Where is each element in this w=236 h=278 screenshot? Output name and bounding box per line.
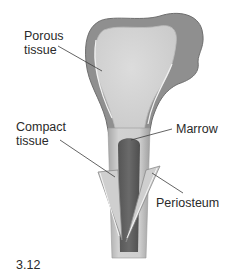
bone-diagram: Porous tissue Compact tissue Marrow Peri… (0, 0, 236, 278)
label-marrow: Marrow (176, 122, 218, 136)
leader-periosteum (152, 173, 183, 193)
label-porous-line2: tissue (24, 43, 64, 57)
leader-compact (60, 140, 115, 177)
label-periosteum: Periosteum (156, 196, 219, 210)
label-compact-line1: Compact (16, 120, 66, 134)
label-compact-line2: tissue (16, 134, 66, 148)
figure-number: 3.12 (16, 258, 40, 272)
label-porous-line1: Porous (24, 29, 64, 43)
label-compact-tissue: Compact tissue (16, 120, 66, 148)
label-porous-tissue: Porous tissue (24, 29, 64, 57)
